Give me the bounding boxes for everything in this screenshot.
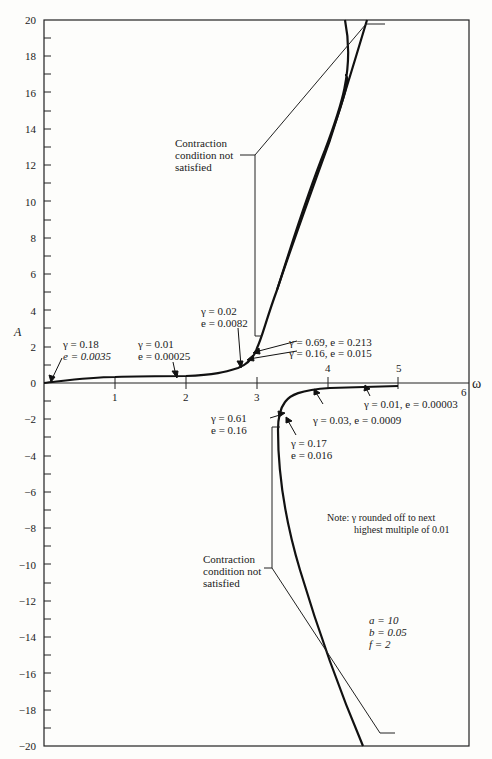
annotation-gamma-0.61: γ = 0.61 e = 0.16 bbox=[211, 412, 247, 436]
x-tick-label: 5 bbox=[396, 362, 402, 374]
y-tick-label: 18 bbox=[4, 50, 36, 62]
y-tick-label: 10 bbox=[4, 196, 36, 208]
annotation-gamma-0.01: γ = 0.01 e = 0.00025 bbox=[138, 338, 190, 362]
y-tick-label: −6 bbox=[4, 486, 36, 498]
y-tick-label: −2 bbox=[4, 413, 36, 425]
x-tick-label: 1 bbox=[112, 391, 118, 403]
y-tick-label: 6 bbox=[4, 268, 36, 280]
y-tick-label: 8 bbox=[4, 232, 36, 244]
upper-contraction-label: Contraction condition not satisfied bbox=[175, 137, 233, 173]
y-tick-label: 2 bbox=[4, 341, 36, 353]
note-text: Note: γ rounded off to next highest mult… bbox=[327, 512, 450, 536]
annotation-gamma-0.01-e-0.00003: γ = 0.01, e = 0.00003 bbox=[364, 398, 458, 410]
y-tick-label: 4 bbox=[4, 305, 36, 317]
x-tick-label: 6 bbox=[461, 386, 467, 398]
y-tick-label: 12 bbox=[4, 159, 36, 171]
chart-canvas bbox=[0, 0, 492, 759]
y-tick-label: −4 bbox=[4, 450, 36, 462]
annotation-gamma-0.17: γ = 0.17 e = 0.016 bbox=[291, 437, 332, 461]
y-tick-label: −12 bbox=[4, 595, 36, 607]
x-tick-label: 2 bbox=[183, 391, 189, 403]
x-tick-label: 3 bbox=[254, 391, 260, 403]
y-tick-label: −10 bbox=[4, 559, 36, 571]
y-tick-label: 14 bbox=[4, 123, 36, 135]
x-tick-label: 4 bbox=[325, 362, 331, 374]
annotation-gamma-0.16: γ = 0.16, e = 0.015 bbox=[289, 347, 372, 359]
annotation-gamma-0.02: γ = 0.02 e = 0.0082 bbox=[201, 305, 248, 329]
y-tick-label: −20 bbox=[4, 740, 36, 752]
lower-contraction-label: Contraction condition not satisfied bbox=[203, 553, 261, 589]
y-tick-label: 16 bbox=[4, 87, 36, 99]
annotation-gamma-0.18: γ = 0.18 e = 0.0035 bbox=[63, 338, 111, 362]
y-tick-label: −14 bbox=[4, 631, 36, 643]
y-tick-label: 20 bbox=[4, 14, 36, 26]
y-tick-label: −18 bbox=[4, 704, 36, 716]
parameters: a = 10 b = 0.05 f = 2 bbox=[369, 614, 407, 650]
lower-contraction-bracket bbox=[264, 427, 395, 733]
x-axis-label: ω bbox=[472, 378, 481, 390]
y-tick-label: −8 bbox=[4, 522, 36, 534]
y-axis-label: A bbox=[14, 326, 21, 338]
upper-branch-curve bbox=[44, 20, 348, 383]
y-tick-label: −16 bbox=[4, 668, 36, 680]
annotation-gamma-0.03: γ = 0.03, e = 0.0009 bbox=[313, 414, 401, 426]
y-tick-label: 0 bbox=[4, 377, 36, 389]
